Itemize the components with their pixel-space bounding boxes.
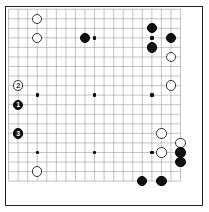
stone-white[interactable]	[166, 80, 176, 90]
star-point	[93, 151, 96, 154]
star-point	[150, 93, 153, 96]
star-point	[36, 93, 39, 96]
stone-black[interactable]	[166, 33, 176, 43]
star-point	[93, 36, 96, 39]
stone-white-2[interactable]: 2	[13, 80, 23, 90]
stone-white[interactable]	[32, 166, 42, 176]
stone-black[interactable]	[147, 23, 157, 33]
stone-move-number: 2	[14, 81, 22, 89]
stone-layer: 213	[0, 0, 209, 212]
stone-black[interactable]	[137, 176, 147, 186]
go-board: 213	[0, 0, 209, 212]
star-point	[150, 151, 153, 154]
stone-black-3[interactable]: 3	[13, 128, 23, 138]
stone-white[interactable]	[32, 14, 42, 24]
stone-black-1[interactable]: 1	[13, 100, 23, 110]
stone-white[interactable]	[32, 33, 42, 43]
stone-black[interactable]	[147, 42, 157, 52]
stone-move-number: 3	[14, 129, 22, 137]
stone-white[interactable]	[156, 147, 166, 157]
star-point	[36, 151, 39, 154]
stone-move-number: 1	[14, 101, 22, 109]
star-point	[150, 36, 153, 39]
stone-black[interactable]	[175, 157, 185, 167]
stone-black[interactable]	[80, 33, 90, 43]
stone-black[interactable]	[156, 176, 166, 186]
stone-white[interactable]	[156, 128, 166, 138]
stone-white[interactable]	[166, 52, 176, 62]
star-point	[93, 93, 96, 96]
